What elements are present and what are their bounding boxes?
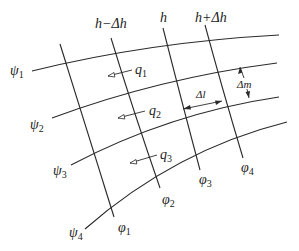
streamline-psi2: [52, 63, 277, 118]
label-phi4: φ4: [241, 161, 254, 177]
streamline-psi3: [71, 97, 279, 165]
label-psi4: ψ4: [69, 226, 83, 242]
streamline-psi4: [85, 122, 287, 229]
flow-net-diagram: h−Δh h h+Δh ψ1 ψ2 ψ3 ψ4 φ1 φ2 φ3 φ4 q1 q…: [0, 0, 299, 251]
label-q2: q2: [149, 104, 161, 120]
label-psi3: ψ3: [53, 164, 67, 180]
label-psi2: ψ2: [30, 118, 44, 134]
label-q1: q1: [135, 63, 147, 79]
equipotential-phi1: [60, 44, 114, 217]
label-psi1: ψ1: [10, 64, 24, 80]
label-delta-m: Δm: [237, 79, 251, 90]
label-h: h: [160, 11, 167, 25]
flow-arrow-q2: [118, 111, 145, 119]
equipotential-phi4: [205, 25, 243, 158]
label-h-plus-dh: h+Δh: [195, 11, 227, 25]
label-h-minus-dh: h−Δh: [95, 17, 127, 31]
flow-arrow-q3: [130, 155, 157, 164]
label-q3: q3: [160, 148, 172, 164]
delta-l-dimension: [183, 101, 222, 110]
label-delta-l: Δl: [196, 89, 206, 100]
flow-net-lines: [0, 0, 299, 251]
flow-arrow-q1: [108, 70, 132, 77]
streamline-psi1: [32, 35, 279, 71]
label-phi2: φ2: [162, 193, 175, 209]
label-phi3: φ3: [199, 173, 212, 189]
label-phi1: φ1: [118, 221, 131, 237]
